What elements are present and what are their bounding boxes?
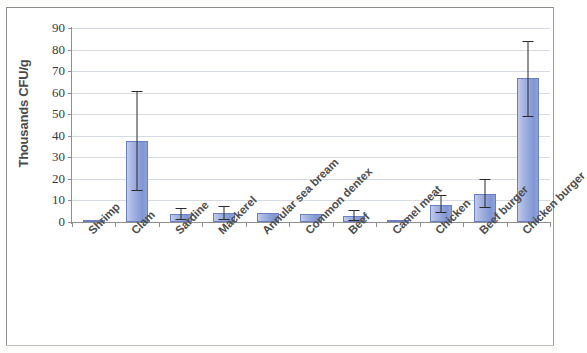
error-bar-stem	[224, 206, 225, 219]
error-bar-cap-upper	[132, 91, 143, 92]
x-tick-mark	[289, 222, 290, 227]
error-bar-cap-upper	[523, 41, 534, 42]
error-bar-cap-upper	[219, 206, 230, 207]
y-tick-label-0: 0	[59, 214, 66, 230]
y-tick-label-50: 50	[52, 106, 65, 122]
bar-group[interactable]	[115, 28, 158, 222]
y-tick-label-40: 40	[52, 127, 65, 143]
x-tick-mark	[463, 222, 464, 227]
error-bar-stem	[528, 41, 529, 116]
page-border-right	[553, 7, 554, 346]
bar-group[interactable]	[202, 28, 245, 222]
error-bar-cap-upper	[479, 179, 490, 180]
y-tick-label-60: 60	[52, 84, 65, 100]
y-tick-label-10: 10	[52, 192, 65, 208]
y-tick-label-20: 20	[52, 171, 65, 187]
y-tick-label-90: 90	[52, 20, 65, 36]
x-tick-mark	[376, 222, 377, 227]
error-bar-stem	[180, 208, 181, 219]
error-bar-cap-lower	[479, 207, 490, 208]
bar-group[interactable]	[376, 28, 419, 222]
error-bar-cap-upper	[349, 210, 360, 211]
bar-group[interactable]	[246, 28, 289, 222]
x-tick-mark	[202, 222, 203, 227]
y-tick-label-80: 80	[52, 41, 65, 57]
x-tick-mark	[115, 222, 116, 227]
error-bar-cap-upper	[175, 208, 186, 209]
error-bar-stem	[441, 195, 442, 212]
x-tick-mark	[72, 222, 73, 227]
bar-group[interactable]	[72, 28, 115, 222]
y-axis-title: Thousands CFU/g	[16, 19, 31, 209]
bar-group[interactable]	[463, 28, 506, 222]
y-tick-label-30: 30	[52, 149, 65, 165]
x-axis-labels: ShrimpClamSardineMackerelAnnular sea bre…	[72, 228, 550, 348]
error-bar-cap-lower	[523, 116, 534, 117]
x-tick-mark	[420, 222, 421, 227]
bar-group[interactable]	[159, 28, 202, 222]
error-bar-stem	[137, 91, 138, 190]
y-tick-label-70: 70	[52, 63, 65, 79]
x-tick-mark	[333, 222, 334, 227]
x-tick-mark	[507, 222, 508, 227]
error-bar-stem	[484, 179, 485, 207]
error-bar-cap-lower	[436, 212, 447, 213]
error-bar-cap-lower	[132, 190, 143, 191]
x-tick-mark-end	[550, 222, 551, 227]
x-tick-mark	[246, 222, 247, 227]
x-tick-mark	[159, 222, 160, 227]
